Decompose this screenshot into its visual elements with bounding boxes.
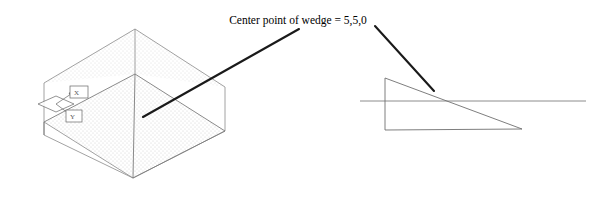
diagram-svg: X Y Center point of wedge = 5,5,0 — [0, 0, 602, 200]
profile-wedge-view — [360, 78, 586, 130]
annotation-label: Center point of wedge = 5,5,0 — [229, 14, 367, 27]
ucs-y-label: Y — [70, 113, 75, 121]
leader-line-to-profile-wedge — [375, 26, 434, 91]
ucs-x-label: X — [74, 89, 79, 97]
wedge-diagram-canvas: X Y Center point of wedge = 5,5,0 — [0, 0, 602, 200]
profile-triangle — [385, 78, 522, 130]
